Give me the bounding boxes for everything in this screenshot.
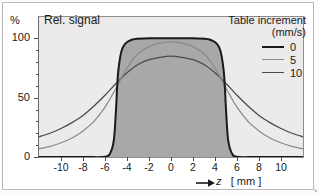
legend-title: Table increment [228, 14, 306, 26]
x-axis-unit: [ mm ] [231, 175, 262, 187]
y-tick [34, 157, 39, 158]
legend-item-label: 5 [290, 54, 306, 66]
y-axis-unit-label: % [10, 14, 20, 26]
x-tick-label--8: -8 [72, 161, 94, 173]
legend-item-label: 10 [290, 67, 306, 79]
x-axis-symbol: z [216, 175, 222, 187]
x-tick-label-10: 10 [270, 161, 292, 173]
y-tick-label-100: 100 [4, 31, 30, 43]
x-axis-arrow-icon [196, 178, 216, 188]
x-tick-label-8: 8 [248, 161, 270, 173]
legend-unit: (mm/s) [228, 26, 306, 38]
legend-item-5: 5 [228, 53, 306, 66]
legend-line-swatch [262, 46, 284, 48]
x-axis-title: z [ mm ] [216, 175, 261, 187]
x-tick-label--2: -2 [138, 161, 160, 173]
x-tick-label-2: 2 [182, 161, 204, 173]
legend-line-swatch [262, 59, 284, 60]
x-tick-label-6: 6 [226, 161, 248, 173]
legend-item-label: 0 [290, 41, 306, 53]
y-tick-label-50: 50 [4, 91, 30, 103]
x-tick-label--6: -6 [94, 161, 116, 173]
corner-mark: a [314, 187, 317, 193]
legend-line-swatch [262, 72, 284, 73]
x-tick-label--4: -4 [116, 161, 138, 173]
x-tick-label-0: 0 [160, 161, 182, 173]
legend-item-0: 0 [228, 40, 306, 53]
x-tick-label-4: 4 [204, 161, 226, 173]
legend-item-10: 10 [228, 66, 306, 79]
y-axis-spine [38, 17, 39, 157]
plot-title: Rel. signal [44, 13, 100, 27]
legend-entries: 0510 [228, 40, 306, 79]
x-tick-label--10: -10 [50, 161, 72, 173]
y-tick-label-0: 0 [4, 150, 30, 162]
legend: Table increment (mm/s) 0510 [228, 14, 306, 79]
figure-container: % Rel. signal 050100 -10-8-6-4-20246810 … [0, 0, 320, 195]
